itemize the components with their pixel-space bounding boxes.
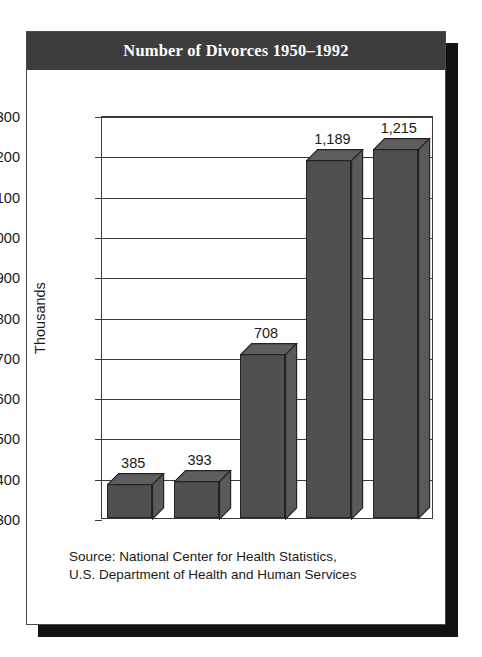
bar-column: [306, 149, 351, 518]
chart-plot-area: Thousands 1,3001,2001,1001,0009008007006…: [101, 116, 433, 519]
y-axis-tick-label: 800: [0, 311, 20, 327]
source-note: Source: National Center for Health Stati…: [69, 548, 356, 584]
y-axis-title: Thousands: [32, 282, 48, 354]
y-axis-tick-label: 1,200: [0, 149, 20, 165]
y-axis-tick-label: 600: [0, 391, 20, 407]
source-line-2: U.S. Department of Health and Human Serv…: [69, 566, 356, 584]
y-axis-tick-label: 300: [0, 512, 20, 528]
bar-value-label: 393: [187, 452, 211, 468]
bar-value-label: 1,215: [381, 120, 417, 136]
y-axis-tick-label: 1,300: [0, 109, 20, 125]
bar-column: [174, 470, 219, 518]
y-axis-tick-label: 900: [0, 270, 20, 286]
y-tick-mark: [95, 117, 102, 118]
source-line-1: Source: National Center for Health Stati…: [69, 548, 356, 566]
y-tick-mark: [95, 399, 102, 400]
y-tick-mark: [95, 198, 102, 199]
chart-title-bar: Number of Divorces 1950–1992: [27, 32, 445, 70]
y-axis-tick-label: 1,100: [0, 190, 20, 206]
bar-side-face: [285, 343, 298, 520]
bar-column: [373, 138, 418, 518]
bar-column: [240, 343, 285, 518]
y-tick-mark: [95, 278, 102, 279]
bar-value-label: 708: [254, 325, 278, 341]
bar-front-face: [306, 160, 351, 518]
chart-title: Number of Divorces 1950–1992: [27, 32, 445, 70]
bar-front-face: [373, 149, 418, 518]
bar-side-face: [418, 138, 431, 520]
y-tick-mark: [95, 439, 102, 440]
y-tick-mark: [95, 359, 102, 360]
y-tick-mark: [95, 238, 102, 239]
bar-front-face: [107, 484, 152, 518]
screenshot-root: Number of Divorces 1950–1992 Thousands 1…: [0, 0, 482, 657]
y-tick-mark: [95, 157, 102, 158]
bar-value-label: 385: [121, 455, 145, 471]
gridline: [102, 117, 432, 118]
y-axis-tick-label: 700: [0, 351, 20, 367]
bar-front-face: [240, 354, 285, 518]
bar-side-face: [351, 149, 364, 520]
y-axis-tick-label: 1,000: [0, 230, 20, 246]
y-tick-mark: [95, 520, 102, 521]
chart-card: Number of Divorces 1950–1992 Thousands 1…: [26, 31, 446, 625]
y-tick-mark: [95, 480, 102, 481]
bar-value-label: 1,189: [314, 131, 350, 147]
bar-front-face: [174, 481, 219, 518]
bar-side-face: [152, 473, 165, 520]
y-axis-tick-label: 400: [0, 472, 20, 488]
bar-side-face: [219, 470, 232, 520]
y-axis-tick-label: 500: [0, 431, 20, 447]
bar-column: [107, 473, 152, 518]
y-tick-mark: [95, 319, 102, 320]
